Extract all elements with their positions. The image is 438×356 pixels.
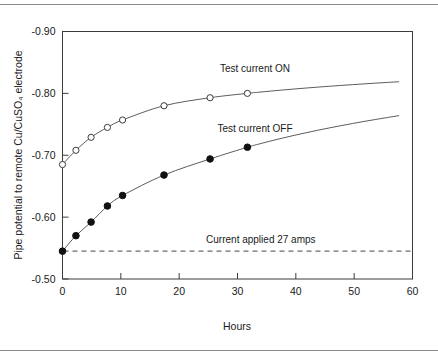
svg-text:-0.80: -0.80 <box>32 87 56 99</box>
annotation-test-current-on: Test current ON <box>220 63 290 74</box>
data-point <box>161 103 167 109</box>
data-point <box>88 219 95 226</box>
annotation-test-current-off: Test current OFF <box>217 123 292 134</box>
data-point <box>207 95 213 101</box>
figure-container: -0.90-0.80-0.70-0.60-0.50 0102030405060 … <box>0 0 438 356</box>
svg-text:-0.90: -0.90 <box>32 25 56 37</box>
x-axis-tickmarks <box>63 273 413 279</box>
data-point <box>59 161 65 167</box>
chart-plot: -0.90-0.80-0.70-0.60-0.50 0102030405060 … <box>0 0 438 356</box>
svg-text:0: 0 <box>60 285 66 297</box>
data-point <box>88 134 94 140</box>
data-point <box>104 124 110 130</box>
y-axis-ticklabels: -0.90-0.80-0.70-0.60-0.50 <box>32 25 56 285</box>
series-curve-test-current-off <box>63 116 400 252</box>
svg-text:10: 10 <box>115 285 127 297</box>
data-point <box>119 192 126 199</box>
x-axis-title: Hours <box>223 320 251 332</box>
data-point <box>244 144 251 151</box>
data-point <box>119 117 125 123</box>
data-point <box>207 156 214 163</box>
data-point <box>104 203 111 210</box>
svg-text:30: 30 <box>232 285 244 297</box>
svg-text:-0.70: -0.70 <box>32 149 56 161</box>
data-point <box>59 248 66 255</box>
annotation-current-applied: Current applied 27 amps <box>206 234 316 245</box>
y-axis-title: Pipe potential to remote Cu/CuSO₄ electr… <box>12 50 24 259</box>
svg-text:20: 20 <box>173 285 185 297</box>
data-point <box>161 172 168 179</box>
svg-text:-0.50: -0.50 <box>32 273 56 285</box>
y-axis-tickmarks <box>63 32 69 280</box>
svg-text:-0.60: -0.60 <box>32 211 56 223</box>
data-point <box>244 90 250 96</box>
svg-text:60: 60 <box>407 285 419 297</box>
svg-text:50: 50 <box>348 285 360 297</box>
x-axis-ticklabels: 0102030405060 <box>60 285 419 297</box>
data-point <box>73 232 80 239</box>
data-point <box>73 147 79 153</box>
svg-text:40: 40 <box>290 285 302 297</box>
